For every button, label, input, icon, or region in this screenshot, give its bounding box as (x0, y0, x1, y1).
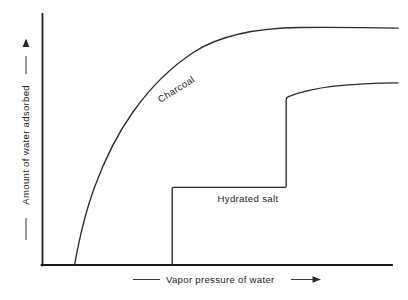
hydrated-salt-step-curve (172, 83, 398, 266)
charcoal-isotherm-curve (75, 27, 399, 265)
x-axis-title: Vapor pressure of water (166, 274, 275, 285)
series-hydrated-salt (172, 83, 398, 266)
y-axis-title-group: Amount of water adsorbed (20, 39, 31, 241)
x-axis-arrow-head-icon (313, 276, 322, 283)
series-label-hydrated-salt: Hydrated salt (217, 193, 278, 204)
chart-canvas: Amount of water adsorbed Vapor pressure … (0, 0, 408, 300)
adsorption-isotherm-figure: Amount of water adsorbed Vapor pressure … (0, 0, 408, 300)
series-charcoal (75, 27, 399, 265)
y-axis-title: Amount of water adsorbed (20, 85, 31, 205)
axis-group (42, 14, 393, 266)
x-axis-title-group: Vapor pressure of water (133, 274, 321, 285)
y-axis-arrow-head-icon (23, 39, 30, 48)
